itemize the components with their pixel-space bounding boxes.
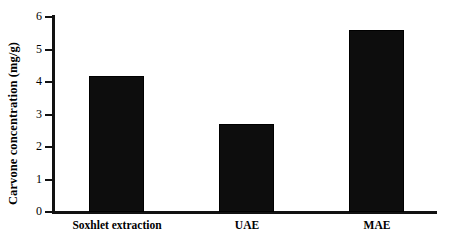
y-tick-mark-4 xyxy=(45,81,53,83)
x-category-label-soxhlet-extraction: Soxhlet extraction xyxy=(56,219,178,231)
y-tick-mark-2 xyxy=(45,146,53,148)
y-tick-mark-6 xyxy=(45,16,53,18)
y-tick-label-4: 4 xyxy=(20,75,42,87)
x-category-label-mae: MAE xyxy=(326,219,428,231)
y-tick-label-1: 1 xyxy=(20,173,42,185)
y-tick-label-3: 3 xyxy=(20,108,42,120)
y-tick-mark-1 xyxy=(45,179,53,181)
y-tick-label-5: 5 xyxy=(20,43,42,55)
y-tick-mark-3 xyxy=(45,114,53,116)
y-tick-label-2: 2 xyxy=(20,140,42,152)
bar-uae xyxy=(219,124,274,212)
bar-mae xyxy=(349,30,404,212)
bar-chart: Carvone concentration (mg/g) 0 1 2 3 4 5… xyxy=(0,0,450,247)
x-category-label-uae: UAE xyxy=(196,219,298,231)
y-tick-label-6: 6 xyxy=(20,10,42,22)
bar-soxhlet-extraction xyxy=(89,76,144,213)
y-tick-mark-5 xyxy=(45,49,53,51)
y-tick-mark-0 xyxy=(45,211,53,213)
y-tick-label-0: 0 xyxy=(20,205,42,217)
